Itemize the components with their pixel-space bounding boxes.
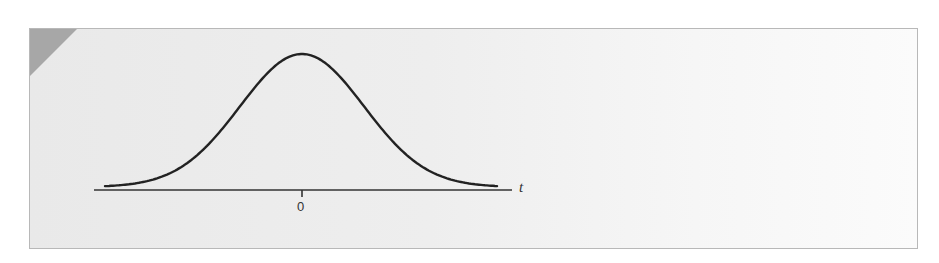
bell-curve: [105, 54, 497, 186]
t-axis-label: t: [519, 179, 523, 196]
bell-curve-plot: [0, 0, 939, 263]
zero-tick-label: 0: [297, 199, 304, 214]
